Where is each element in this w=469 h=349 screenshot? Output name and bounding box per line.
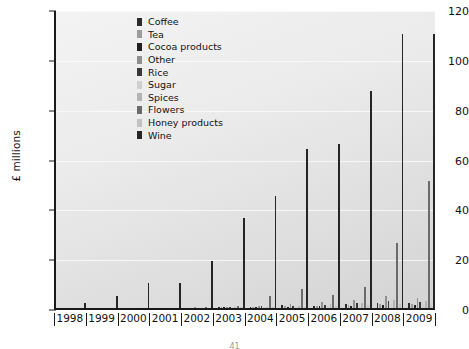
legend-swatch-icon: [137, 81, 142, 89]
plot-area: [54, 11, 435, 310]
legend-swatch-icon: [137, 18, 142, 26]
bar: [284, 306, 286, 308]
legend-item-label: Tea: [148, 29, 164, 40]
legend-item-label: Wine: [148, 130, 172, 141]
bar: [304, 307, 306, 308]
bar: [370, 91, 372, 308]
legend-swatch-icon: [137, 119, 142, 127]
bar: [431, 305, 433, 308]
x-tick-separator: [308, 313, 309, 326]
bar: [229, 307, 231, 308]
bar: [221, 307, 223, 308]
bar: [364, 287, 366, 308]
bar-group: [345, 11, 372, 308]
bar: [417, 298, 419, 308]
bar: [433, 34, 435, 308]
legend-item: Spices: [137, 92, 223, 104]
legend-item: Cocoa products: [137, 41, 223, 53]
y-axis-title: £ millions: [10, 96, 22, 216]
legend-item-label: Sugar: [148, 79, 176, 90]
x-tick-separator: [340, 313, 341, 326]
x-tick-separator: [86, 313, 87, 326]
bar-group: [408, 11, 435, 308]
bar: [324, 305, 326, 308]
bar: [263, 307, 265, 308]
bar: [319, 306, 321, 308]
bar: [258, 306, 260, 308]
bar: [428, 181, 430, 308]
chart-legend: CoffeeTeaCocoa productsOtherRiceSugarSpi…: [137, 16, 223, 141]
legend-item: Rice: [137, 66, 223, 78]
bar: [313, 306, 315, 308]
bar: [266, 307, 268, 308]
bar: [223, 307, 225, 308]
bar: [269, 296, 271, 308]
bar: [330, 304, 332, 308]
bar: [205, 307, 207, 308]
bar-group: [313, 11, 340, 308]
bar: [332, 295, 334, 308]
x-tick-separator: [181, 313, 182, 326]
legend-item-label: Flowers: [148, 104, 184, 115]
legend-swatch-icon: [137, 43, 142, 51]
x-axis: 1998199920002001200220032004200520062007…: [54, 313, 435, 333]
bar: [234, 307, 236, 308]
bar: [414, 305, 416, 308]
bar: [84, 303, 86, 308]
legend-item-label: Rice: [148, 67, 168, 78]
bar: [390, 304, 392, 308]
bar-group: [281, 11, 308, 308]
bar: [218, 307, 220, 308]
bar: [316, 306, 318, 308]
x-tick-label: 1998: [57, 312, 84, 324]
bar: [388, 301, 390, 308]
bar: [327, 306, 329, 308]
x-tick-label: 2001: [152, 312, 179, 324]
x-tick-separator: [403, 313, 404, 326]
bar: [353, 300, 355, 308]
bar: [243, 218, 245, 308]
bar: [179, 283, 181, 308]
x-tick-label: 2004: [247, 312, 274, 324]
bar: [379, 304, 381, 308]
bar: [298, 306, 300, 308]
bar: [252, 307, 254, 308]
bar: [261, 306, 263, 308]
bar: [345, 304, 347, 308]
bar: [275, 196, 277, 308]
legend-swatch-icon: [137, 93, 142, 101]
bar: [402, 34, 404, 308]
bar: [425, 301, 427, 308]
bar: [385, 296, 387, 308]
x-tick-label: 2009: [406, 312, 433, 324]
legend-item-label: Spices: [148, 92, 179, 103]
legend-swatch-icon: [137, 131, 142, 139]
x-tick-separator: [118, 313, 119, 326]
legend-item: Honey products: [137, 117, 223, 129]
x-tick-separator: [149, 313, 150, 326]
legend-item-label: Honey products: [148, 117, 223, 128]
bar: [377, 303, 379, 308]
x-tick-label: 1999: [88, 312, 115, 324]
bar: [272, 307, 274, 308]
bar: [382, 305, 384, 308]
bar: [226, 307, 228, 308]
bar: [290, 304, 292, 308]
legend-item-label: Coffee: [148, 16, 179, 27]
bar: [240, 307, 242, 308]
x-tick-separator: [54, 313, 55, 326]
legend-item: Other: [137, 54, 223, 66]
x-tick-label: 2008: [374, 312, 401, 324]
bar: [281, 305, 283, 308]
x-tick-label: 2006: [311, 312, 338, 324]
legend-item: Tea: [137, 29, 223, 41]
bar-group: [59, 11, 86, 308]
bar: [250, 307, 252, 308]
legend-item-label: Cocoa products: [148, 41, 222, 52]
bar: [321, 302, 323, 308]
x-tick-separator: [435, 313, 436, 326]
bar-group: [250, 11, 277, 308]
bar: [148, 283, 150, 308]
bar: [211, 261, 213, 308]
legend-swatch-icon: [137, 56, 142, 64]
